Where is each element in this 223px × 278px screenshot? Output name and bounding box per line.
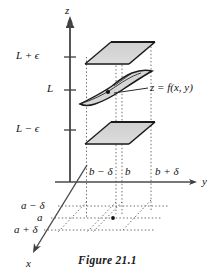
z-tick-label-upper: L + ϵ xyxy=(16,50,39,61)
x-tick-label-lower: a − δ xyxy=(21,200,45,211)
x-axis-arrowhead xyxy=(33,243,41,253)
upper-plane xyxy=(85,42,155,64)
lower-plane xyxy=(85,122,155,144)
z-axis-label: z xyxy=(65,5,69,16)
surface-equation-label: z = f(x, y) xyxy=(150,82,193,93)
figure-container: z y x L + ϵ L L − ϵ b − δ b b + δ a − δ … xyxy=(0,0,223,278)
y-tick-label-lower: b − δ xyxy=(89,166,113,177)
base-point-marker xyxy=(111,216,115,220)
x-tick-label-a: a xyxy=(37,212,43,223)
x-axis-label: x xyxy=(26,258,31,269)
function-surface xyxy=(80,70,152,105)
limit-point-marker xyxy=(106,90,110,94)
figure-caption: Figure 21.1 xyxy=(78,254,137,266)
y-tick-label-b: b xyxy=(125,166,131,177)
figure-graphic xyxy=(0,0,223,278)
x-tick-label-upper: a + δ xyxy=(14,224,38,235)
y-axis-label: y xyxy=(202,176,207,187)
y-tick-label-upper: b + δ xyxy=(155,166,179,177)
z-tick-label-lower: L − ϵ xyxy=(16,123,39,134)
z-tick-label-limit: L xyxy=(47,83,53,94)
